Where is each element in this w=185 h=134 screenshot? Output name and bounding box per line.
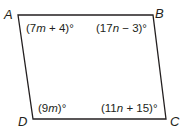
vertex-label-a: A xyxy=(4,8,13,21)
angle-d-rest: )° xyxy=(58,102,66,114)
vertex-label-b: B xyxy=(155,7,164,20)
angle-b-rest: − 3)° xyxy=(119,22,147,34)
angle-d-coef: (9 xyxy=(38,102,48,114)
angle-d-var: m xyxy=(48,102,58,114)
angle-a-var: m xyxy=(36,22,46,34)
angle-a-rest: + 4)° xyxy=(46,22,74,34)
angle-b-coef: (17 xyxy=(96,22,113,34)
vertex-label-d: D xyxy=(18,115,27,128)
angle-a-label: (7m + 4)° xyxy=(26,23,74,35)
angle-a-coef: (7 xyxy=(26,22,36,34)
angle-b-label: (17n − 3)° xyxy=(96,23,147,35)
angle-d-label: (9m)° xyxy=(38,103,66,115)
angle-c-label: (11n + 15)° xyxy=(101,103,158,115)
vertex-label-c: C xyxy=(170,115,179,128)
angle-c-rest: + 15)° xyxy=(123,102,157,114)
angle-c-coef: (11 xyxy=(101,102,117,114)
